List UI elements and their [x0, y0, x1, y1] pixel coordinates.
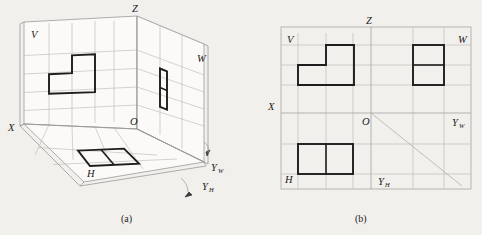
- v-quadrant-grid-b: [281, 33, 471, 189]
- label-yh-base-b: Y: [378, 176, 385, 187]
- figure-root: V Z W X O H Y W Y H: [0, 0, 482, 235]
- h-quadrant-grid-b: [281, 144, 471, 174]
- label-h-plane-b: H: [284, 174, 294, 185]
- label-yw-base-b: Y: [452, 117, 459, 128]
- label-x-axis-b: X: [267, 101, 275, 112]
- v-plane-a: [20, 16, 137, 129]
- panel-b-group: V Z W X O H Y W Y H: [267, 15, 471, 189]
- label-w-plane-a: W: [197, 53, 207, 64]
- label-yh-a: Y H: [202, 181, 214, 193]
- w-quadrant-grid-b: [413, 27, 444, 189]
- v-plane-face: [24, 16, 137, 129]
- v-plane-thickness-top: [20, 22, 24, 24]
- label-origin-a: O: [130, 116, 138, 127]
- caption-panel-b: (b): [355, 213, 367, 225]
- mitre-line-b: [371, 113, 462, 186]
- label-z-axis-a: Z: [132, 3, 138, 14]
- label-yh-b: Y H: [378, 176, 390, 188]
- label-yh-sub-a: H: [208, 186, 214, 193]
- arrow-yh-curve-a: [181, 178, 188, 192]
- label-yw-base-a: Y: [211, 162, 218, 173]
- caption-panel-a: (a): [121, 213, 132, 225]
- label-z-axis-b: Z: [366, 15, 372, 26]
- label-yw-sub-a: W: [218, 167, 224, 174]
- label-w-plane-b: W: [458, 34, 468, 45]
- v-plane-thickness-left: [20, 24, 24, 126]
- arrow-yh-a: [185, 192, 192, 197]
- label-yh-sub-b: H: [384, 181, 390, 188]
- technical-drawing-svg: V Z W X O H Y W Y H: [0, 0, 482, 235]
- label-v-plane-b: V: [287, 34, 295, 45]
- label-yw-b: Y W: [452, 117, 465, 129]
- h-plane-thickness-left: [20, 124, 24, 126]
- label-origin-b: O: [362, 116, 370, 127]
- label-yw-a: Y W: [211, 162, 224, 174]
- label-yw-sub-b: W: [459, 122, 465, 129]
- label-x-axis-a: X: [7, 122, 15, 133]
- sheet-frame-b: [281, 27, 471, 189]
- panel-a-group: V Z W X O H Y W Y H: [7, 3, 224, 197]
- label-h-plane-a: H: [86, 168, 96, 179]
- label-yh-base-a: Y: [202, 181, 209, 192]
